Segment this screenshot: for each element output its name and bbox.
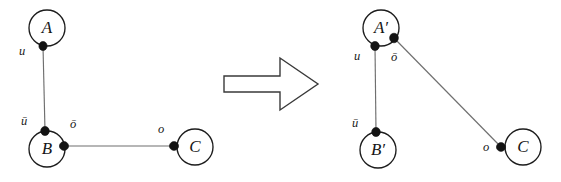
diagram-canvas: A B C u ū ō o <box>0 0 561 182</box>
port-Ap-obar-dot[interactable] <box>390 33 399 43</box>
port-A-u-dot[interactable] <box>39 41 47 50</box>
edge-Ap-u-to-Bp-ubar <box>375 46 376 132</box>
port-Bp-ubar-dot[interactable] <box>372 127 381 136</box>
node-B-label: B <box>42 139 53 158</box>
node-B-prime[interactable]: B′ <box>360 132 396 168</box>
node-C-label: C <box>189 137 201 156</box>
node-C-right-label: C <box>517 137 529 156</box>
port-Ap-u-label: u <box>354 49 360 63</box>
port-A-u-label: u <box>19 44 25 58</box>
rewrite-arrow-icon <box>224 58 318 110</box>
port-Ap-u-dot[interactable] <box>371 41 380 50</box>
node-C[interactable]: C <box>177 129 213 165</box>
port-C2-o-dot[interactable] <box>496 143 505 152</box>
port-C-o-dot[interactable] <box>169 142 178 151</box>
left-graph: A B C u ū ō o <box>19 10 213 167</box>
node-A[interactable]: A <box>29 10 65 46</box>
node-B[interactable]: B <box>29 131 65 167</box>
port-C2-o-label: o <box>483 140 489 154</box>
node-A-label: A <box>41 18 53 37</box>
edge-A-u-to-B-ubar <box>43 46 45 131</box>
right-graph: A′ B′ C u ō ū o <box>352 10 541 168</box>
edge-Ap-obar-to-C2-o <box>394 38 501 147</box>
node-C-right[interactable]: C <box>505 129 541 165</box>
port-Ap-obar-label: ō <box>391 50 397 64</box>
port-B-ubar-label: ū <box>21 114 27 128</box>
node-A-prime-label: A′ <box>373 18 388 37</box>
figure-root: A B C u ū ō o <box>0 0 561 182</box>
node-B-prime-label: B′ <box>371 140 385 159</box>
port-B-obar-label: ō <box>70 117 76 131</box>
port-Bp-ubar-label: ū <box>352 116 358 130</box>
port-C-o-label: o <box>158 122 164 136</box>
port-B-obar-dot[interactable] <box>59 142 68 151</box>
port-B-ubar-dot[interactable] <box>41 126 50 135</box>
